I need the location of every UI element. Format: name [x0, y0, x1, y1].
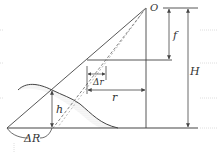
- dr-label: Δr: [92, 77, 104, 87]
- h-label: h: [56, 103, 63, 116]
- ray-foot-dashed: [53, 8, 146, 128]
- O-label: O: [150, 2, 158, 13]
- r-label: r: [112, 91, 118, 104]
- f-label: f: [172, 29, 179, 42]
- terrain-hill: [18, 84, 118, 128]
- ray-foot-dashed-2: [58, 8, 146, 127]
- H-label: H: [189, 65, 200, 78]
- dR-label: ΔR: [23, 132, 40, 145]
- relief-displacement-diagram: f H O Δr r h ΔR: [0, 0, 219, 153]
